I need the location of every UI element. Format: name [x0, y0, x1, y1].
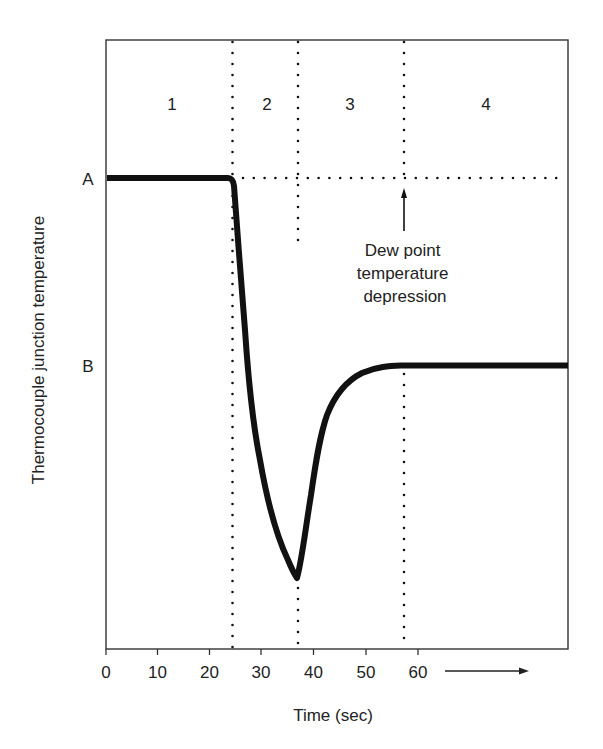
annotation-line-3: depression: [363, 287, 446, 306]
region-label-2: 2: [262, 95, 271, 114]
x-tick-50: 50: [357, 663, 376, 682]
x-tick-40: 40: [304, 663, 323, 682]
arrow-head-icon: [401, 188, 407, 198]
x-axis-ticks: [106, 649, 418, 655]
dew-point-arrow: [401, 188, 407, 231]
annotation-line-2: temperature: [357, 264, 449, 283]
dew-point-chart: Dew point temperature depression 1 2 3 4…: [0, 0, 603, 749]
level-label-b: B: [82, 357, 93, 376]
x-tick-10: 10: [148, 663, 167, 682]
region-label-3: 3: [345, 95, 354, 114]
x-tick-30: 30: [252, 663, 271, 682]
level-label-a: A: [82, 170, 94, 189]
plot-frame: [106, 40, 568, 649]
annotation-text: Dew point temperature depression: [357, 241, 453, 306]
region-label-1: 1: [167, 95, 176, 114]
region-label-4: 4: [481, 95, 490, 114]
region-dividers: [233, 42, 405, 648]
x-axis-label: Time (sec): [293, 706, 373, 725]
x-tick-labels: 0 10 20 30 40 50 60: [101, 663, 427, 682]
annotation-line-1: Dew point: [365, 241, 441, 260]
x-tick-60: 60: [409, 663, 428, 682]
y-axis-label: Thermocouple junction temperature: [29, 216, 48, 484]
x-tick-0: 0: [101, 663, 110, 682]
temperature-curve: [107, 178, 568, 578]
time-direction-arrow: [445, 668, 529, 675]
x-tick-20: 20: [200, 663, 219, 682]
arrow-right-icon: [519, 668, 529, 675]
